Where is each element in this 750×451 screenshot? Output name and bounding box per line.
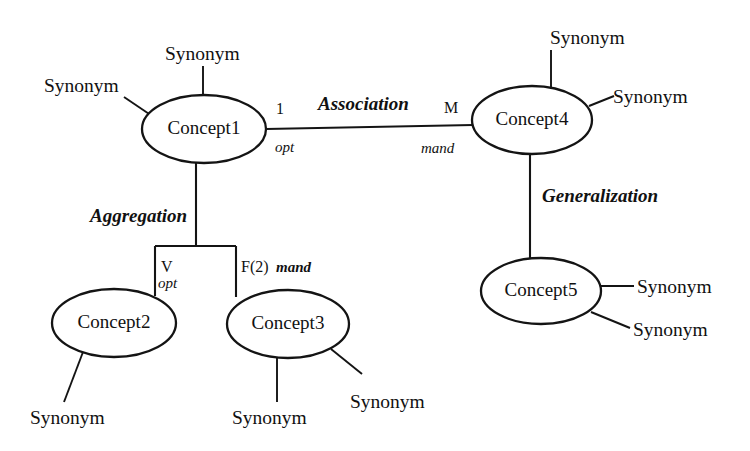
concept5-synonym-lower-line bbox=[591, 312, 630, 328]
concept2-synonym-line bbox=[64, 352, 83, 402]
aggregation-right-cardinality: F(2) bbox=[241, 258, 269, 276]
node-concept3[interactable]: Concept3 bbox=[227, 290, 349, 358]
aggregation-left-cardinality: V bbox=[161, 258, 173, 275]
association-source-cardinality: 1 bbox=[276, 100, 284, 117]
concept5-synonym-lower-label: Synonym bbox=[633, 319, 708, 340]
association-edge-line bbox=[266, 125, 473, 129]
concept4-label: Concept4 bbox=[496, 108, 569, 129]
concept3-synonym-below-label: Synonym bbox=[232, 407, 307, 428]
node-concept2[interactable]: Concept2 bbox=[52, 289, 176, 357]
concept5-synonym-upper-label: Synonym bbox=[637, 276, 712, 297]
concept1-synonym-left-label: Synonym bbox=[44, 75, 119, 96]
concept-diagram: Concept1 Concept2 Concept3 Concept4 Conc… bbox=[0, 0, 750, 451]
diagram-canvas-container: Concept1 Concept2 Concept3 Concept4 Conc… bbox=[0, 0, 750, 451]
association-source-modifier: opt bbox=[275, 139, 295, 155]
generalization-label: Generalization bbox=[542, 185, 658, 206]
node-concept1[interactable]: Concept1 bbox=[142, 95, 266, 163]
concept2-synonym-label: Synonym bbox=[30, 407, 105, 428]
concept1-label: Concept1 bbox=[168, 117, 241, 138]
concept3-synonym-right-label: Synonym bbox=[350, 391, 425, 412]
association-label: Association bbox=[317, 93, 409, 114]
concept4-synonym-right-label: Synonym bbox=[613, 86, 688, 107]
concept2-label: Concept2 bbox=[78, 311, 151, 332]
concept4-synonym-right-line bbox=[589, 96, 614, 106]
association-target-modifier: mand bbox=[421, 140, 455, 156]
concept5-label: Concept5 bbox=[505, 279, 578, 300]
concept3-synonym-right-line bbox=[331, 349, 362, 374]
node-concept5[interactable]: Concept5 bbox=[481, 258, 601, 324]
concept4-synonym-top-label: Synonym bbox=[550, 27, 625, 48]
concept1-synonym-top-label: Synonym bbox=[165, 43, 240, 64]
node-concept4[interactable]: Concept4 bbox=[472, 86, 592, 154]
association-target-cardinality: M bbox=[444, 99, 458, 116]
aggregation-right-modifier: mand bbox=[276, 259, 312, 275]
aggregation-label: Aggregation bbox=[89, 205, 187, 226]
concept3-label: Concept3 bbox=[252, 312, 325, 333]
aggregation-left-modifier: opt bbox=[158, 275, 178, 291]
